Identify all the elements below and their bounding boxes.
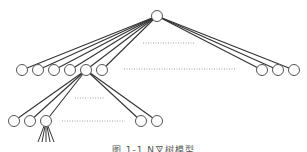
tree-graphic bbox=[0, 0, 307, 152]
tree-node-level1 bbox=[81, 65, 92, 76]
tree-node-level1 bbox=[33, 65, 44, 76]
tree-node-level1 bbox=[65, 65, 76, 76]
tree-node-level1 bbox=[289, 65, 300, 76]
tree-node-level1 bbox=[257, 65, 268, 76]
tree-node-level1 bbox=[273, 65, 284, 76]
tree-edge bbox=[54, 16, 157, 70]
tree-edge bbox=[157, 16, 294, 70]
root-node bbox=[152, 11, 163, 22]
tree-node-level2 bbox=[136, 116, 147, 127]
tree-edge bbox=[157, 16, 278, 70]
tree-diagram: 图 1-1 N叉树模型 bbox=[0, 0, 307, 152]
tree-edge bbox=[157, 16, 262, 70]
tree-node-level1 bbox=[17, 65, 28, 76]
tree-edge bbox=[86, 70, 141, 121]
tree-edge bbox=[86, 70, 157, 121]
tree-node-level2 bbox=[9, 116, 20, 127]
tree-edge bbox=[30, 70, 86, 121]
tree-node-level2 bbox=[152, 116, 163, 127]
tree-node-level2 bbox=[41, 116, 52, 127]
figure-caption: 图 1-1 N叉树模型 bbox=[0, 143, 307, 152]
tree-edge bbox=[46, 70, 86, 121]
tree-node-level1 bbox=[97, 65, 108, 76]
tree-edge bbox=[14, 70, 86, 121]
tree-edge bbox=[22, 16, 157, 70]
tree-node-level2 bbox=[25, 116, 36, 127]
tree-node-level1 bbox=[49, 65, 60, 76]
